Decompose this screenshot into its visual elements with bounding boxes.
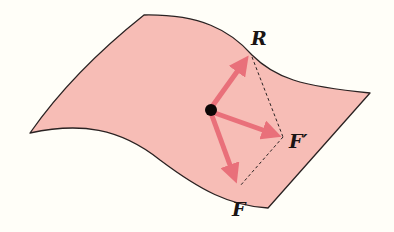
- diagram-svg: [0, 0, 394, 232]
- particle-dot: [205, 104, 217, 116]
- label-f-prime: F′: [289, 132, 308, 151]
- curved-surface: [30, 15, 370, 208]
- label-r: R: [251, 29, 267, 48]
- diagram-canvas: R F′ F: [0, 0, 394, 232]
- label-f: F: [232, 200, 246, 219]
